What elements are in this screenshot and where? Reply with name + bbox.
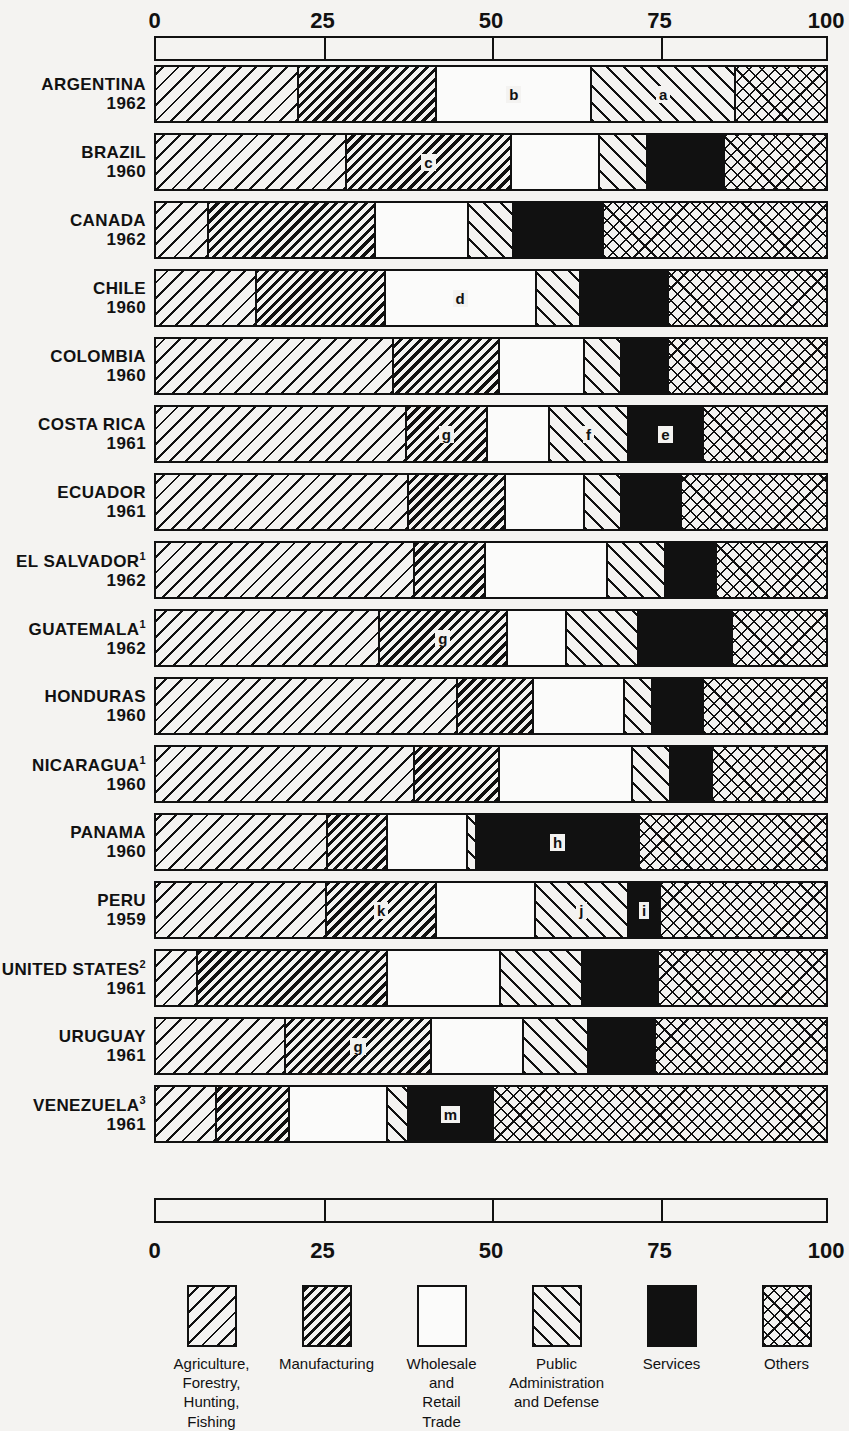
bar-segment-wholesale-retail-trade bbox=[508, 611, 567, 665]
legend-item-public-administration[interactable]: Public Administration and Defense bbox=[499, 1285, 614, 1412]
bar-segment-public-administration bbox=[469, 203, 514, 257]
country-name: VENEZUELA3 bbox=[33, 1094, 146, 1115]
bar-segment-public-administration bbox=[524, 1019, 590, 1073]
country-name: ECUADOR bbox=[57, 483, 146, 502]
bar-segment-services bbox=[639, 611, 733, 665]
bar-segment-manufacturing: g bbox=[286, 1019, 432, 1073]
country-footnote-marker: 1 bbox=[139, 618, 146, 630]
bar-segment-agriculture bbox=[156, 611, 380, 665]
bar-segment-agriculture bbox=[156, 1087, 217, 1141]
reference-year: 1960 bbox=[107, 842, 146, 861]
chart-row: PANAMA1960h bbox=[0, 813, 849, 871]
segment-note: g bbox=[435, 630, 450, 647]
chart-row: URUGUAY1961g bbox=[0, 1017, 849, 1075]
row-label-guatemala: GUATEMALA11962 bbox=[0, 609, 146, 667]
bar-segment-manufacturing bbox=[217, 1087, 290, 1141]
bar-segment-wholesale-retail-trade bbox=[486, 543, 608, 597]
chart-row: CHILE1960d bbox=[0, 269, 849, 327]
bar-segment-services: h bbox=[477, 815, 640, 869]
stacked-bar bbox=[154, 541, 828, 599]
chart-row: PERU1959kji bbox=[0, 881, 849, 939]
chart-row: CANADA1962 bbox=[0, 201, 849, 259]
bar-segment-manufacturing: g bbox=[407, 407, 489, 461]
stacked-bar: g bbox=[154, 1017, 828, 1075]
bar-segment-services: m bbox=[409, 1087, 493, 1141]
bar-segment-manufacturing bbox=[415, 543, 486, 597]
country-name: CHILE bbox=[93, 279, 146, 298]
country-name: PANAMA bbox=[70, 823, 146, 842]
reference-year: 1960 bbox=[107, 706, 146, 725]
chart-row: NICARAGUA11960 bbox=[0, 745, 849, 803]
country-footnote-marker: 1 bbox=[139, 754, 146, 766]
bar-segment-public-administration bbox=[537, 271, 581, 325]
legend-label-others: Others bbox=[764, 1354, 809, 1373]
bar-segment-manufacturing bbox=[415, 747, 499, 801]
bar-segment-wholesale-retail-trade bbox=[388, 951, 501, 1005]
chart-row: BRAZIL1960c bbox=[0, 133, 849, 191]
reference-year: 1962 bbox=[107, 94, 146, 113]
stacked-bar: gfe bbox=[154, 405, 828, 463]
bar-segment-services: i bbox=[629, 883, 661, 937]
chart-row: ARGENTINA1962ba bbox=[0, 65, 849, 123]
row-label-brazil: BRAZIL1960 bbox=[0, 133, 146, 191]
reference-year: 1961 bbox=[107, 502, 146, 521]
bar-segment-services bbox=[653, 679, 704, 733]
legend-label-agriculture: Agriculture, Forestry, Hunting, Fishing bbox=[174, 1354, 250, 1431]
country-name: COSTA RICA bbox=[38, 415, 146, 434]
chart-row: COSTA RICA1961gfe bbox=[0, 405, 849, 463]
segment-note: g bbox=[350, 1038, 365, 1055]
stacked-bar: ba bbox=[154, 65, 828, 123]
bar-segment-wholesale-retail-trade: b bbox=[437, 67, 592, 121]
bar-segment-agriculture bbox=[156, 407, 407, 461]
bar-segment-wholesale-retail-trade bbox=[388, 815, 468, 869]
bar-segment-services bbox=[581, 271, 669, 325]
stacked-bar: h bbox=[154, 813, 828, 871]
bar-segment-others bbox=[604, 203, 826, 257]
country-name: PERU bbox=[97, 891, 146, 910]
stacked-bar: c bbox=[154, 133, 828, 191]
bar-segment-wholesale-retail-trade bbox=[500, 747, 633, 801]
segment-note: h bbox=[550, 834, 565, 851]
legend-item-trade[interactable]: Wholesale and Retail Trade bbox=[384, 1285, 499, 1431]
row-label-honduras: HONDURAS1960 bbox=[0, 677, 146, 735]
legend-swatch-others bbox=[762, 1285, 812, 1347]
segment-note: m bbox=[441, 1106, 460, 1123]
segment-note: i bbox=[639, 902, 649, 919]
gridline-25 bbox=[324, 38, 326, 59]
country-name: NICARAGUA1 bbox=[32, 754, 146, 775]
axis-tick-25: 25 bbox=[310, 1238, 334, 1264]
bar-segment-agriculture bbox=[156, 1019, 286, 1073]
segment-note: c bbox=[421, 154, 435, 171]
country-name: ARGENTINA bbox=[41, 75, 146, 94]
gridline-25 bbox=[324, 1200, 326, 1221]
legend-item-manufacturing[interactable]: Manufacturing bbox=[269, 1285, 384, 1373]
axis-tick-25: 25 bbox=[310, 8, 334, 34]
bar-segment-manufacturing bbox=[394, 339, 500, 393]
bar-segment-wholesale-retail-trade bbox=[534, 679, 625, 733]
legend-swatch-agriculture bbox=[187, 1285, 237, 1347]
legend-item-services[interactable]: Services bbox=[614, 1285, 729, 1373]
bar-segment-others bbox=[669, 339, 826, 393]
reference-year: 1960 bbox=[107, 298, 146, 317]
legend-item-agriculture[interactable]: Agriculture, Forestry, Hunting, Fishing bbox=[154, 1285, 269, 1431]
axis-tick-100: 100 bbox=[808, 1238, 845, 1264]
legend-item-others[interactable]: Others bbox=[729, 1285, 844, 1373]
legend-swatch-trade bbox=[417, 1285, 467, 1347]
gridline-50 bbox=[492, 1200, 494, 1221]
bar-segment-services: e bbox=[629, 407, 704, 461]
legend-label-trade: Wholesale and Retail Trade bbox=[406, 1354, 476, 1431]
row-label-panama: PANAMA1960 bbox=[0, 813, 146, 871]
country-name: UNITED STATES2 bbox=[2, 958, 146, 979]
stacked-bar bbox=[154, 337, 828, 395]
segment-note: g bbox=[439, 426, 454, 443]
bar-segment-agriculture bbox=[156, 475, 409, 529]
stacked-bar bbox=[154, 473, 828, 531]
bar-segment-others bbox=[725, 135, 826, 189]
bar-segment-manufacturing: c bbox=[347, 135, 512, 189]
bar-segment-manufacturing bbox=[409, 475, 505, 529]
bar-segment-others bbox=[717, 543, 826, 597]
stacked-bar: kji bbox=[154, 881, 828, 939]
row-label-uruguay: URUGUAY1961 bbox=[0, 1017, 146, 1075]
stacked-bar: d bbox=[154, 269, 828, 327]
